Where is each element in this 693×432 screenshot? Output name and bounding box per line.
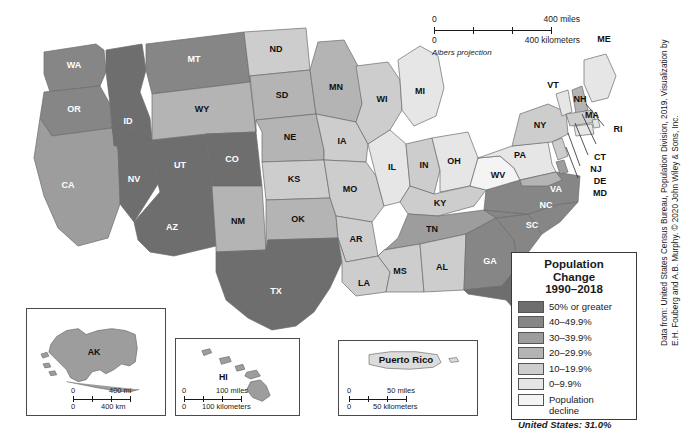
state-label-ny: NY <box>534 120 547 130</box>
state-label-ri: RI <box>614 124 623 134</box>
credit-line-2: E.H. Fouberg and A.B. Murphy. © 2020 Joh… <box>670 0 681 346</box>
legend-swatch <box>518 316 544 328</box>
inset-label-pr: Puerto Rico <box>379 354 434 365</box>
ak-miles-zero: 0 <box>71 386 75 395</box>
state-nj <box>552 138 568 160</box>
legend-row: 10–19.9% <box>518 362 630 378</box>
scale-bar: 0 400 miles 0 400 kilometers Albers proj… <box>432 14 582 57</box>
state-label-in: IN <box>420 160 429 170</box>
state-label-md: MD <box>593 188 607 198</box>
state-label-id: ID <box>124 116 134 126</box>
inset-label-ak: AK <box>88 347 101 357</box>
legend-class-list: 50% or greater40–49.9%30–39.9%20–29.9%10… <box>518 300 630 417</box>
state-label-me: ME <box>597 34 611 44</box>
state-label-oh: OH <box>447 156 461 166</box>
state-label-sd: SD <box>276 90 289 100</box>
state-label-il: IL <box>388 162 397 172</box>
map-figure: WAORCAIDNVUTAZMTWYCONMNDSDNEKSOKTXMNIAMO… <box>0 0 693 432</box>
inset-label-hi: HI <box>219 372 228 382</box>
state-label-ok: OK <box>291 214 305 224</box>
state-label-va: VA <box>550 184 562 194</box>
legend-swatch <box>518 301 544 313</box>
legend-label: 40–49.9% <box>549 315 592 328</box>
state-label-or: OR <box>67 104 81 114</box>
legend-swatch <box>518 363 544 375</box>
state-label-tn: TN <box>426 224 438 234</box>
state-label-ks: KS <box>288 174 301 184</box>
source-credit: Data from: United States Census Bureau, … <box>659 0 693 432</box>
state-tx <box>216 238 342 330</box>
legend-label: Population decline <box>549 393 594 417</box>
state-label-ar: AR <box>350 234 363 244</box>
legend-swatch <box>518 347 544 359</box>
scale-bar-graphic <box>434 27 552 34</box>
legend-title-line1: Population <box>518 258 630 271</box>
legend-row: 0–9.9% <box>518 377 630 393</box>
state-label-ut: UT <box>174 160 186 170</box>
puerto-rico-inset: Puerto Rico 0 50 miles 0 50 kilometers <box>338 340 478 416</box>
state-label-nv: NV <box>128 174 141 184</box>
state-label-nd: ND <box>270 44 283 54</box>
state-label-mt: MT <box>188 54 201 64</box>
legend-title-line2: Change <box>518 271 630 284</box>
hi-km-zero: 0 <box>182 402 186 411</box>
scale-miles-zero: 0 <box>432 14 437 24</box>
scale-km-zero: 0 <box>432 35 437 45</box>
state-label-nj: NJ <box>590 164 602 174</box>
legend-row: 30–39.9% <box>518 331 630 347</box>
state-label-ms: MS <box>393 266 407 276</box>
state-label-ne: NE <box>284 132 297 142</box>
state-label-tx: TX <box>270 286 282 296</box>
state-label-ca: CA <box>62 180 75 190</box>
state-label-nc: NC <box>540 200 553 210</box>
state-label-vt: VT <box>547 80 559 90</box>
state-label-mn: MN <box>329 82 343 92</box>
pr-miles-zero: 0 <box>347 386 351 395</box>
state-label-ma: MA <box>585 110 599 120</box>
puerto-rico-scale-bar: 0 50 miles 0 50 kilometers <box>347 386 473 412</box>
state-label-ga: GA <box>483 256 497 266</box>
state-label-ky: KY <box>434 198 447 208</box>
legend-row: 40–49.9% <box>518 315 630 331</box>
legend-swatch <box>518 332 544 344</box>
legend-row: Population decline <box>518 393 630 417</box>
state-label-az: AZ <box>166 222 178 232</box>
alaska-scale-bar: 0 400 mi 0 400 km <box>71 386 163 412</box>
legend-national-summary: United States: 31.0% <box>518 419 630 430</box>
state-label-co: CO <box>225 154 239 164</box>
state-label-nm: NM <box>231 216 245 226</box>
legend-swatch <box>518 378 544 390</box>
legend-row: 20–29.9% <box>518 346 630 362</box>
hawaii-scale-bar: 0 100 miles 0 100 kilometers <box>182 386 292 412</box>
state-label-wa: WA <box>67 60 82 70</box>
state-label-pa: PA <box>514 150 526 160</box>
state-label-wv: WV <box>491 170 506 180</box>
hawaii-inset: HI 0 100 miles 0 100 kilometers <box>175 338 300 416</box>
legend-label: 50% or greater <box>549 300 612 313</box>
state-label-wy: WY <box>195 104 210 114</box>
legend-label: 10–19.9% <box>549 362 592 375</box>
pr-km-label: 50 kilometers <box>373 402 418 411</box>
ak-km-label: 400 km <box>101 402 126 411</box>
hi-miles-zero: 0 <box>182 386 186 395</box>
legend-label: 30–39.9% <box>549 331 592 344</box>
state-mn <box>310 40 362 122</box>
hi-miles-label: 100 miles <box>216 386 248 395</box>
legend-swatch <box>518 394 544 406</box>
state-label-mi: MI <box>415 86 425 96</box>
scale-km-label: 400 kilometers <box>525 35 580 45</box>
hi-km-label: 100 kilometers <box>202 402 251 411</box>
state-label-de: DE <box>594 176 607 186</box>
projection-note: Albers projection <box>432 48 582 57</box>
legend-row: 50% or greater <box>518 300 630 316</box>
state-de <box>556 160 568 174</box>
pr-miles-label: 50 miles <box>387 386 415 395</box>
state-label-ia: IA <box>338 136 348 146</box>
credit-line-1: Data from: United States Census Bureau, … <box>659 0 670 346</box>
map-legend: Population Change 1990–2018 50% or great… <box>511 252 637 420</box>
ak-km-zero: 0 <box>71 402 75 411</box>
ak-miles-label: 400 mi <box>109 386 132 395</box>
state-me <box>584 54 616 102</box>
state-label-sc: SC <box>526 220 539 230</box>
state-label-ct: CT <box>594 152 606 162</box>
